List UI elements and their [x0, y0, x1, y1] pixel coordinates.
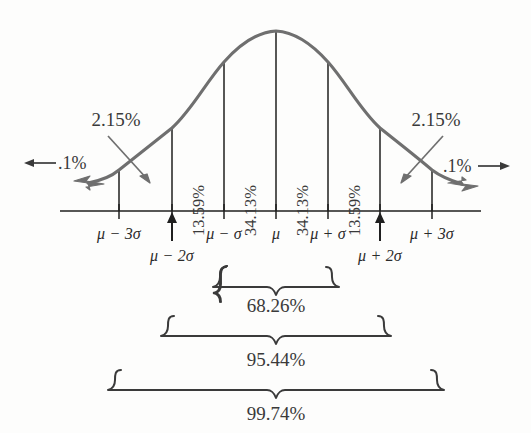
brace-percent-three-sigma: 99.74%: [247, 404, 306, 423]
brace-three-sigma: [108, 370, 444, 398]
tail-arrow-right: [478, 162, 510, 170]
axis-label-p3s: μ + 3σ: [410, 226, 454, 242]
pointer-arrow-p2s: [375, 212, 385, 241]
brace-percent-one-sigma: 68.26%: [247, 296, 306, 315]
axis-label-mu: μ: [272, 226, 280, 242]
tail-arrow-left: [24, 159, 56, 167]
pointer-arrow-m2s: [167, 212, 177, 241]
callout-arrow-left: [108, 136, 150, 183]
band-percent-p1-p2: 13.59%: [347, 185, 364, 236]
band-percent-m2-m1: 13.59%: [191, 185, 208, 236]
band-percent-mu-p1: 34.13%: [295, 185, 312, 236]
curve-left-tail-arrowhead: [74, 176, 104, 190]
callout-percent-right: 2.15%: [411, 110, 460, 129]
normal-distribution-figure: 13.59% 34.13% 34.13% 13.59% 2.15% 2.15% …: [0, 0, 531, 433]
axis-label-p2s: μ + 2σ: [358, 248, 402, 264]
tail-percent-right: .1%: [443, 157, 472, 175]
axis-label-m1s: μ − σ: [206, 226, 242, 242]
callout-arrow-right: [401, 136, 443, 183]
brace-percent-two-sigma: 95.44%: [247, 350, 306, 369]
bell-curve-path: [88, 31, 462, 184]
band-percent-m1-mu: 34.13%: [243, 185, 260, 236]
brace-two-sigma: [161, 316, 391, 344]
axis-label-p1s: μ + σ: [310, 226, 346, 242]
callout-percent-left: 2.15%: [91, 110, 140, 129]
tail-percent-left: .1%: [58, 154, 87, 172]
axis-label-m2s: μ − 2σ: [150, 248, 194, 264]
drop-lines: [119, 32, 432, 211]
axis-label-m3s: μ − 3σ: [97, 226, 141, 242]
